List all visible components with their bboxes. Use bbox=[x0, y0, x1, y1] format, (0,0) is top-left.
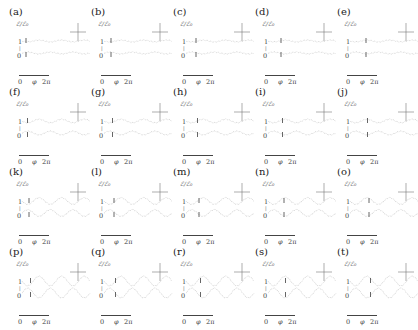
x-axis-line bbox=[347, 235, 377, 236]
subplot-panel-i: (i) ℰ/ℰ₀ 1 | 0 0 φ 2π bbox=[254, 86, 336, 166]
energy-curve bbox=[350, 52, 418, 55]
energy-curve bbox=[268, 119, 336, 124]
y-axis-label: ℰ/ℰ₀ bbox=[344, 260, 356, 267]
x-tick-0: 0 bbox=[100, 318, 104, 326]
panel-label: (t) bbox=[337, 246, 349, 257]
energy-curve bbox=[186, 197, 254, 205]
x-axis-symbol: φ bbox=[360, 238, 365, 246]
energy-curve bbox=[268, 276, 336, 287]
subplot-panel-g: (g) ℰ/ℰ₀ 1 | 0 0 φ 2π bbox=[90, 86, 172, 166]
y-tick-0: 0 bbox=[99, 292, 103, 300]
plot-area bbox=[268, 188, 336, 228]
x-axis-symbol: φ bbox=[32, 78, 37, 86]
x-tick-2pi: 2π bbox=[42, 78, 50, 86]
y-tick-mid: | bbox=[347, 205, 349, 211]
panel-label: (h) bbox=[173, 86, 187, 97]
y-tick-mid: | bbox=[265, 205, 267, 211]
y-axis-label: ℰ/ℰ₀ bbox=[180, 100, 192, 107]
y-tick-mid: | bbox=[19, 125, 21, 131]
energy-curve bbox=[268, 197, 336, 205]
energy-curve bbox=[22, 119, 90, 124]
energy-curve bbox=[186, 209, 254, 217]
x-tick-0: 0 bbox=[100, 78, 104, 86]
energy-curve bbox=[350, 131, 418, 136]
panel-label: (a) bbox=[9, 6, 23, 17]
x-tick-2pi: 2π bbox=[288, 318, 296, 326]
energy-curve bbox=[104, 52, 172, 55]
x-tick-0: 0 bbox=[346, 78, 350, 86]
x-axis-line bbox=[347, 75, 377, 76]
x-axis-line bbox=[347, 155, 377, 156]
panel-label: (m) bbox=[173, 166, 190, 177]
y-tick-mid: | bbox=[183, 45, 185, 51]
panel-label: (k) bbox=[9, 166, 23, 177]
x-tick-0: 0 bbox=[264, 318, 268, 326]
energy-curve bbox=[104, 40, 172, 43]
x-axis-symbol: φ bbox=[196, 158, 201, 166]
energy-curve bbox=[104, 276, 172, 287]
x-tick-2pi: 2π bbox=[124, 158, 132, 166]
plot-area bbox=[22, 28, 90, 68]
subplot-panel-h: (h) ℰ/ℰ₀ 1 | 0 0 φ 2π bbox=[172, 86, 254, 166]
subplot-panel-t: (t) ℰ/ℰ₀ 1 | 0 0 φ 2π bbox=[336, 246, 418, 326]
x-tick-0: 0 bbox=[182, 158, 186, 166]
y-axis-label: ℰ/ℰ₀ bbox=[16, 180, 28, 187]
crosshair-icon bbox=[152, 23, 168, 41]
y-tick-0: 0 bbox=[17, 292, 21, 300]
energy-curve bbox=[104, 131, 172, 136]
y-tick-0: 0 bbox=[99, 212, 103, 220]
energy-curve bbox=[22, 131, 90, 136]
y-axis-label: ℰ/ℰ₀ bbox=[344, 180, 356, 187]
energy-curve bbox=[350, 197, 418, 205]
y-tick-mid: | bbox=[183, 205, 185, 211]
y-tick-0: 0 bbox=[263, 52, 267, 60]
subplot-panel-c: (c) ℰ/ℰ₀ 1 | 0 0 φ 2π bbox=[172, 6, 254, 86]
x-tick-2pi: 2π bbox=[206, 318, 214, 326]
y-axis-label: ℰ/ℰ₀ bbox=[262, 20, 274, 27]
x-tick-2pi: 2π bbox=[42, 158, 50, 166]
plot-area bbox=[22, 108, 90, 148]
y-tick-mid: | bbox=[265, 125, 267, 131]
subplot-panel-l: (l) ℰ/ℰ₀ 1 | 0 0 φ 2π bbox=[90, 166, 172, 246]
subplot-panel-m: (m) ℰ/ℰ₀ 1 | 0 0 φ 2π bbox=[172, 166, 254, 246]
plot-area bbox=[268, 268, 336, 308]
energy-curve bbox=[268, 52, 336, 55]
y-axis-label: ℰ/ℰ₀ bbox=[98, 100, 110, 107]
energy-curve bbox=[22, 276, 90, 287]
plot-area bbox=[350, 188, 418, 228]
y-axis-label: ℰ/ℰ₀ bbox=[344, 20, 356, 27]
x-axis-line bbox=[183, 75, 213, 76]
x-tick-0: 0 bbox=[264, 238, 268, 246]
x-tick-0: 0 bbox=[18, 238, 22, 246]
crosshair-icon bbox=[70, 263, 86, 281]
x-axis-line bbox=[19, 155, 49, 156]
energy-curve bbox=[22, 209, 90, 217]
x-axis-symbol: φ bbox=[278, 238, 283, 246]
crosshair-icon bbox=[316, 103, 332, 121]
x-axis-symbol: φ bbox=[32, 238, 37, 246]
x-axis-symbol: φ bbox=[114, 78, 119, 86]
y-tick-0: 0 bbox=[345, 132, 349, 140]
plot-area bbox=[104, 28, 172, 68]
x-axis-symbol: φ bbox=[360, 78, 365, 86]
subplot-panel-r: (r) ℰ/ℰ₀ 1 | 0 0 φ 2π bbox=[172, 246, 254, 326]
x-tick-0: 0 bbox=[346, 318, 350, 326]
x-axis-symbol: φ bbox=[196, 78, 201, 86]
energy-curve bbox=[22, 197, 90, 205]
x-tick-0: 0 bbox=[18, 78, 22, 86]
plot-area bbox=[350, 108, 418, 148]
x-tick-0: 0 bbox=[18, 318, 22, 326]
y-tick-mid: | bbox=[101, 45, 103, 51]
energy-curve bbox=[186, 131, 254, 136]
x-axis-line bbox=[19, 235, 49, 236]
y-axis-label: ℰ/ℰ₀ bbox=[180, 180, 192, 187]
x-tick-0: 0 bbox=[100, 238, 104, 246]
subplot-panel-j: (j) ℰ/ℰ₀ 1 | 0 0 φ 2π bbox=[336, 86, 418, 166]
panel-label: (c) bbox=[173, 6, 186, 17]
subplot-panel-o: (o) ℰ/ℰ₀ 1 | 0 0 φ 2π bbox=[336, 166, 418, 246]
x-tick-0: 0 bbox=[264, 78, 268, 86]
x-axis-symbol: φ bbox=[32, 318, 37, 326]
x-axis-symbol: φ bbox=[114, 238, 119, 246]
y-axis-label: ℰ/ℰ₀ bbox=[262, 260, 274, 267]
